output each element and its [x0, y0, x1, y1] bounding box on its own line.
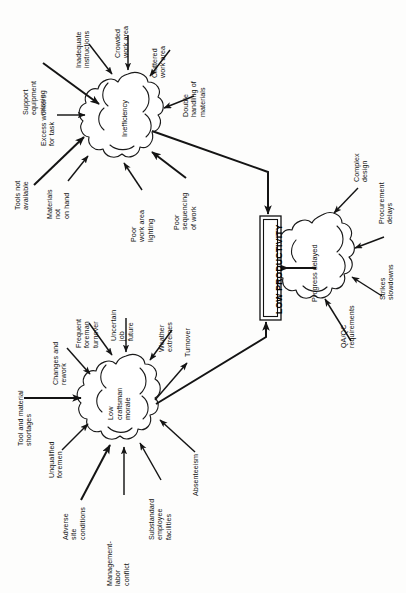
label-qa-qc-requirements: QA/QC requirements	[340, 305, 357, 348]
label-procurement-delays: Procurement delays	[378, 182, 395, 224]
arrow-inefficiency-to-outcome	[152, 131, 268, 214]
label-tool-and-material-shortages: Tool and material shortages	[17, 390, 34, 446]
label-inefficiency: Inefficiency	[121, 100, 130, 137]
label-double-handling: Double handling of materials	[182, 81, 207, 117]
diagram-canvas: Support equipment missing Inadequate ins…	[0, 0, 406, 593]
label-unqualified-foremen: Unqualified foremen	[48, 441, 65, 478]
label-excess-workers-for-task: Excess workers for task	[40, 95, 57, 146]
label-progress-delayed: Progress delayed	[311, 244, 320, 302]
label-complex-design: Complex design	[353, 153, 370, 182]
arrow-procurement-delays	[355, 237, 384, 248]
label-substandard-employee-facilities: Substandard employee facilities	[148, 499, 173, 540]
label-weather-extremes: Weather extremes	[158, 322, 175, 352]
label-frequent-foreman-turnover: Frequent foreman turnover	[75, 319, 100, 348]
label-adverse-site-conditions: Adverse site conditions	[62, 507, 87, 540]
arrow-complex-design	[334, 188, 358, 213]
label-strikes-slowdowns: Strikes slowdowns	[379, 264, 396, 300]
label-low-craftsman-morale: Low craftsman morale	[107, 388, 133, 420]
label-crowded-work-area: Crowded work area	[114, 26, 131, 58]
label-cluttered-work-area: Cluttered work area	[151, 46, 168, 78]
arrow-materials-not-on-hand	[68, 156, 88, 181]
label-poor-work-area-lighting: Poor work area lighting	[130, 210, 155, 242]
arrow-strikes-slowdowns	[352, 277, 382, 296]
label-turnover: Turnover	[184, 328, 192, 357]
label-low-productivity: LOW PRODUCTIVITY	[274, 224, 284, 314]
arrow-changes-and-rework	[67, 348, 90, 374]
arrow-substandard-facilities	[140, 443, 161, 480]
label-tools-not-available: Tools not available	[14, 181, 31, 210]
arrow-absenteeism	[160, 420, 195, 452]
arrow-unqualified-foremen	[62, 424, 88, 450]
arrow-poor-lighting	[124, 163, 142, 190]
label-changes-and-rework: Changes and rework	[52, 342, 69, 385]
label-management-labor-conflict: Management- labor conflict	[106, 541, 131, 586]
label-materials-not-on-hand: Materials not on hand	[46, 189, 71, 219]
label-poor-sequencing-of-work: Poor sequencing of work	[173, 193, 198, 230]
label-inadequate-instructions: Inadequate instructions	[75, 31, 92, 68]
arrow-inadequate-instructions	[89, 44, 112, 74]
arrow-adverse-site-conditions	[81, 445, 110, 500]
label-uncertain-job-future: Uncertain job future	[110, 310, 135, 341]
arrow-poor-sequencing	[152, 152, 186, 178]
label-absenteeism: Absenteeism	[192, 454, 200, 496]
